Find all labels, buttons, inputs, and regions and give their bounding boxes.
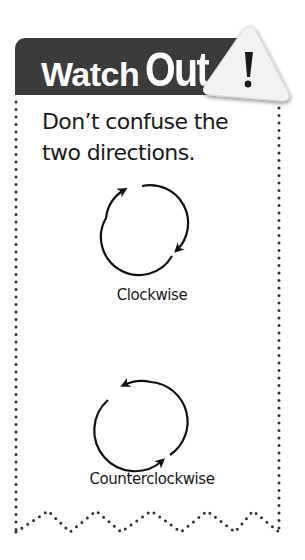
counterclockwise-label: Counterclockwise	[60, 470, 244, 488]
watch-out-callout: WatchOut Don’t confuse the two direction…	[0, 0, 305, 560]
